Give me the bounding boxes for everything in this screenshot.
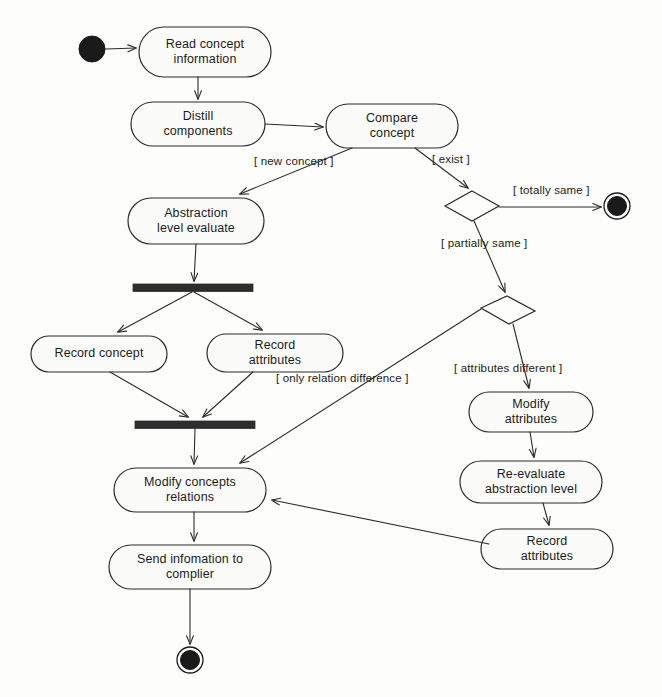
edge-abstraction-eval-to-fork xyxy=(194,244,196,281)
guard-label-partially-same: [ partially same ] xyxy=(441,237,527,249)
node-read-concept-information[interactable] xyxy=(139,27,271,77)
node-modify-concepts-relations[interactable] xyxy=(114,468,266,512)
edge-modify-attributes-to-re-evaluate xyxy=(530,432,534,457)
node-compare-concept[interactable] xyxy=(326,104,458,148)
diagram-vector-layer xyxy=(0,0,662,697)
guard-label-only-relation-difference: [ only relation difference ] xyxy=(276,372,408,384)
edge-distill-to-compare xyxy=(265,124,323,127)
activity-diagram-canvas: Read concept information Distill compone… xyxy=(0,0,662,697)
edge-decision-exist-to-decision-partial xyxy=(474,221,505,292)
guard-label-exist: [ exist ] xyxy=(432,153,470,165)
edge-join-to-modify-relations xyxy=(194,429,195,464)
node-abstraction-level-evaluate[interactable] xyxy=(128,198,264,244)
edge-re-evaluate-to-record-attributes-right xyxy=(543,503,549,525)
edge-start-to-read-concept xyxy=(106,48,137,49)
node-start-initial[interactable] xyxy=(79,36,105,62)
edge-record-concept-to-join xyxy=(110,372,188,417)
node-decision-exist[interactable] xyxy=(445,191,499,221)
node-fork-bar[interactable] xyxy=(133,284,253,292)
node-end-final[interactable] xyxy=(177,647,203,673)
node-decision-partially-same[interactable] xyxy=(481,296,535,324)
edge-decision-partial-to-modify-relations xyxy=(240,309,481,463)
node-record-concept[interactable] xyxy=(31,336,167,372)
node-join-bar[interactable] xyxy=(135,421,255,429)
node-end-totally-same[interactable] xyxy=(604,193,630,219)
node-re-evaluate-abstraction-level[interactable] xyxy=(460,461,602,503)
node-record-attributes-left[interactable] xyxy=(207,334,343,372)
node-modify-attributes[interactable] xyxy=(469,392,593,432)
edge-record-attributes-right-to-modify-relations xyxy=(272,500,489,544)
guard-label-attributes-different: [ attributes different ] xyxy=(454,362,562,374)
edge-decision-partial-to-modify-attributes xyxy=(513,324,529,388)
edge-fork-to-record-concept xyxy=(118,292,192,332)
node-send-information-to-complier[interactable] xyxy=(109,545,271,589)
edge-record-attributes-to-join xyxy=(203,372,253,417)
node-record-attributes-right[interactable] xyxy=(481,529,613,569)
edge-fork-to-record-attributes xyxy=(194,292,262,330)
guard-label-new-concept: [ new concept ] xyxy=(254,155,334,167)
guard-label-totally-same: [ totally same ] xyxy=(513,184,590,196)
node-distill-components[interactable] xyxy=(131,102,265,146)
